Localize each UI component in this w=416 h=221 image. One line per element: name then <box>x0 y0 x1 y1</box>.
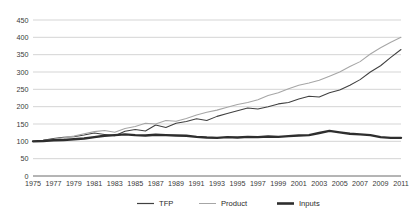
chart-container: 050100150200250300350400450 197519771979… <box>0 0 416 221</box>
y-tick-label: 250 <box>17 85 29 94</box>
y-tick-label: 400 <box>17 33 29 42</box>
y-tick-label: 450 <box>17 16 29 25</box>
x-tick-label: 2003 <box>311 179 327 188</box>
x-tick-label: 1995 <box>229 179 245 188</box>
x-tick-label: 1987 <box>148 179 164 188</box>
x-tick-label: 1989 <box>168 179 184 188</box>
y-tick-label: 50 <box>21 154 29 163</box>
x-tick-label: 1979 <box>66 179 82 188</box>
x-tick-label: 1981 <box>86 179 102 188</box>
x-tick-label: 1975 <box>25 179 41 188</box>
series-line-tfp <box>33 49 401 141</box>
legend-label-inputs: Inputs <box>299 199 320 208</box>
x-tick-label: 1997 <box>250 179 266 188</box>
x-tick-label: 2007 <box>352 179 368 188</box>
x-axis-tick-labels: 1975197719791981198319851987198919911993… <box>25 179 409 188</box>
chart-legend: TFPProductInputs <box>137 199 320 208</box>
x-tick-label: 1977 <box>45 179 61 188</box>
x-tick-label: 1993 <box>209 179 225 188</box>
x-tick-label: 1991 <box>189 179 205 188</box>
x-tick-label: 2005 <box>332 179 348 188</box>
line-chart: 050100150200250300350400450 197519771979… <box>0 0 416 221</box>
y-tick-label: 150 <box>17 120 29 129</box>
x-tick-label: 1985 <box>127 179 143 188</box>
y-axis-tick-labels: 050100150200250300350400450 <box>17 16 29 181</box>
y-tick-label: 100 <box>17 137 29 146</box>
x-tick-label: 2011 <box>393 179 408 188</box>
legend-label-product: Product <box>221 199 248 208</box>
x-tick-label: 1983 <box>107 179 123 188</box>
y-tick-label: 200 <box>17 102 29 111</box>
y-tick-label: 300 <box>17 68 29 77</box>
gridlines-group <box>33 20 401 176</box>
legend-label-tfp: TFP <box>159 199 173 208</box>
y-tick-label: 350 <box>17 50 29 59</box>
x-tick-label: 1999 <box>270 179 286 188</box>
x-tick-label: 2001 <box>291 179 307 188</box>
x-tick-label: 2009 <box>373 179 389 188</box>
